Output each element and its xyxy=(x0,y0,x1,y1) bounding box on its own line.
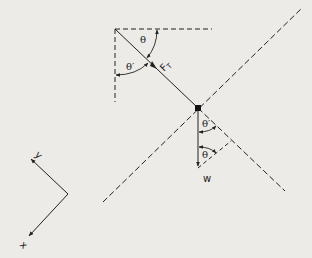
y-axis-label: y xyxy=(33,149,45,161)
point-mass xyxy=(195,105,201,111)
y-axis xyxy=(31,159,68,194)
theta-label-top: θ xyxy=(140,34,146,45)
force-diagram: θ θ′ FT w θ′ θ y x xyxy=(0,0,312,258)
theta-prime-label-top: θ′ xyxy=(126,61,135,72)
x-axis xyxy=(29,194,68,236)
weight-label: w xyxy=(203,173,211,184)
theta-label-bottom: θ xyxy=(202,149,208,160)
tension-arrow-icon xyxy=(150,61,157,69)
theta-prime-label-bottom: θ′ xyxy=(202,118,211,129)
x-axis-label: x xyxy=(18,239,30,251)
theta-arc-top xyxy=(147,30,157,58)
